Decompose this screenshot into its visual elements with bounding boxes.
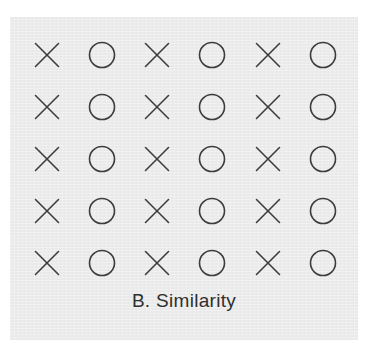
cross-icon [251, 194, 285, 228]
cross-icon [30, 38, 64, 72]
circle-icon [85, 38, 119, 72]
cross-icon [30, 142, 64, 176]
cross-icon [140, 142, 174, 176]
cross-icon [251, 38, 285, 72]
circle-icon [306, 90, 340, 124]
cross-icon [30, 194, 64, 228]
circle-icon [195, 246, 229, 280]
cross-icon [251, 90, 285, 124]
circle-icon [195, 142, 229, 176]
circle-icon [195, 38, 229, 72]
circle-icon [85, 90, 119, 124]
cross-icon [140, 38, 174, 72]
circle-icon [85, 142, 119, 176]
circle-icon [306, 38, 340, 72]
circle-icon [306, 194, 340, 228]
cross-icon [30, 246, 64, 280]
cross-icon [30, 90, 64, 124]
circle-icon [306, 142, 340, 176]
circle-icon [195, 90, 229, 124]
cross-icon [140, 246, 174, 280]
circle-icon [85, 194, 119, 228]
cross-icon [251, 246, 285, 280]
circle-icon [306, 246, 340, 280]
circle-icon [85, 246, 119, 280]
cross-icon [140, 90, 174, 124]
cross-icon [140, 194, 174, 228]
circle-icon [195, 194, 229, 228]
gestalt-similarity-figure: B. Similarity [0, 0, 373, 360]
cross-icon [251, 142, 285, 176]
figure-caption: B. Similarity [10, 290, 358, 312]
figure-panel: B. Similarity [10, 17, 358, 340]
